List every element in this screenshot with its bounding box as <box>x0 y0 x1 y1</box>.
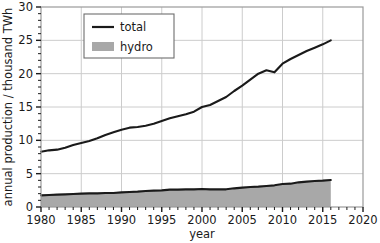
x-tick-label: 1990 <box>107 213 136 227</box>
x-tick-label: 1995 <box>147 213 176 227</box>
y-axis-major-ticks <box>36 7 41 207</box>
legend-label-hydro: hydro <box>120 40 153 54</box>
production-line-chart: 198019851990199520002005201020152020 051… <box>0 0 380 243</box>
legend-label-total: total <box>120 20 146 34</box>
x-tick-label: 2015 <box>308 213 337 227</box>
y-tick-label: 0 <box>26 200 33 214</box>
x-axis-title: year <box>189 227 215 241</box>
x-tick-label: 1985 <box>67 213 96 227</box>
y-tick-label: 20 <box>18 67 33 81</box>
x-axis-tick-labels: 198019851990199520002005201020152020 <box>26 213 377 227</box>
legend-marker-hydro-swatch-icon <box>92 42 114 51</box>
y-axis-title: annual production / thousand TWh <box>1 8 15 207</box>
y-axis-tick-labels: 051015202530 <box>18 0 33 214</box>
y-tick-label: 10 <box>18 133 33 147</box>
x-tick-label: 2010 <box>268 213 297 227</box>
x-tick-label: 2005 <box>228 213 257 227</box>
y-tick-label: 25 <box>18 33 33 47</box>
y-tick-label: 5 <box>26 167 33 181</box>
chart-legend: total hydro <box>84 14 174 58</box>
y-tick-label: 30 <box>18 0 33 14</box>
x-tick-label: 2000 <box>187 213 216 227</box>
x-tick-label: 1980 <box>26 213 55 227</box>
chart-figure: 198019851990199520002005201020152020 051… <box>0 0 380 243</box>
y-tick-label: 15 <box>18 100 33 114</box>
x-tick-label: 2020 <box>348 213 377 227</box>
